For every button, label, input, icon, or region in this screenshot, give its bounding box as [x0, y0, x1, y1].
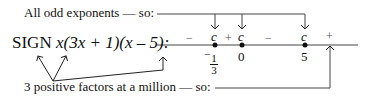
- positive-factors-label: 3 positive factors at a million — so:: [24, 79, 211, 95]
- sign-interval-2: +: [225, 31, 232, 46]
- critical-marker-2: c: [238, 29, 244, 45]
- tick-five: 5: [301, 49, 308, 65]
- sign-expression: SIGN x(3x + 1)(x – 5):: [12, 33, 169, 53]
- expression: x(3x + 1)(x – 5):: [56, 33, 169, 52]
- tick-neg-one-third: −13: [204, 50, 218, 76]
- critical-marker-1: c: [211, 29, 217, 45]
- tick-zero: 0: [238, 49, 245, 65]
- sign-prefix: SIGN: [12, 33, 56, 52]
- sign-interval-4: +: [326, 29, 333, 44]
- odd-exponents-label: All odd exponents — so:: [24, 5, 154, 21]
- sign-interval-3: −: [265, 31, 272, 46]
- fraction: 13: [210, 53, 218, 76]
- critical-marker-3: c: [301, 29, 307, 45]
- sign-interval-1: −: [186, 31, 193, 46]
